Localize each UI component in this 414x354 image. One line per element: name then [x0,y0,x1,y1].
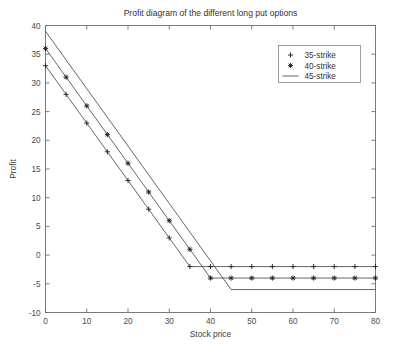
x-axis-label: Stock price [190,329,232,339]
y-tick-label: -5 [33,280,41,289]
y-tick-label: 15 [31,165,41,174]
marker-star [43,46,48,51]
x-tick-label: 30 [165,317,175,326]
marker-plus [352,264,357,269]
legend-label-40-strike: 40-strike [305,62,337,71]
marker-plus [229,264,234,269]
y-tick-label: 0 [36,251,41,260]
x-tick-label: 80 [371,317,381,326]
marker-star [167,218,172,223]
marker-plus [311,264,316,269]
marker-plus [373,264,378,269]
marker-star [125,161,130,166]
x-tick-label: 0 [43,317,48,326]
series-line-35-strike [46,66,376,267]
marker-star [249,275,254,280]
x-tick-label: 50 [247,317,257,326]
marker-star [64,75,69,80]
marker-plus [332,264,337,269]
y-tick-label: 20 [31,136,41,145]
marker-plus [208,264,213,269]
marker-plus [270,264,275,269]
marker-plus [290,264,295,269]
y-tick-label: 30 [31,79,41,88]
legend: 35-strike40-strike45-strike [279,46,361,83]
marker-star [208,275,213,280]
marker-plus [249,264,254,269]
chart-title: Profit diagram of the different long put… [124,8,298,18]
marker-star [290,275,295,280]
profit-diagram-chart: Profit diagram of the different long put… [0,0,414,354]
series-line-40-strike [46,48,376,278]
y-tick-label: -10 [29,309,41,318]
marker-star [84,103,89,108]
marker-star [352,275,357,280]
x-tick-label: 70 [330,317,340,326]
x-tick-label: 20 [123,317,133,326]
marker-star [332,275,337,280]
legend-label-35-strike: 35-strike [305,51,337,60]
y-tick-label: 35 [31,50,41,59]
y-tick-label: 10 [31,194,41,203]
y-tick-label: 5 [36,222,41,231]
legend-label-45-strike: 45-strike [305,72,337,81]
marker-star [146,189,151,194]
marker-star [311,275,316,280]
series-35-strike [43,63,378,269]
x-tick-label: 10 [82,317,92,326]
chart-figure: Profit diagram of the different long put… [0,0,414,354]
marker-star [229,275,234,280]
marker-star [373,275,378,280]
y-tick-label: 40 [31,22,41,31]
x-tick-label: 60 [288,317,298,326]
marker-star [288,63,293,68]
marker-star [187,247,192,252]
marker-star [270,275,275,280]
y-axis-label: Profit [8,159,18,179]
marker-star [105,132,110,137]
x-tick-label: 40 [206,317,216,326]
y-tick-label: 25 [31,108,41,117]
